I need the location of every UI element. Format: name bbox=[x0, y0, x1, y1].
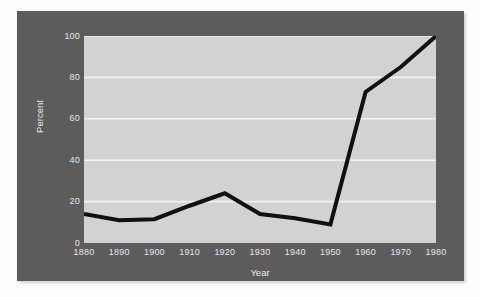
y-tick-label: 40 bbox=[38, 156, 80, 165]
x-tick-label: 1960 bbox=[346, 247, 386, 257]
x-tick-label: 1910 bbox=[170, 247, 210, 257]
chart-panel: 020406080100 188018901900191019201930194… bbox=[17, 11, 464, 281]
x-tick-label: 1900 bbox=[134, 247, 174, 257]
x-tick-label: 1880 bbox=[64, 247, 104, 257]
gridlines bbox=[84, 36, 436, 202]
x-tick-label: 1980 bbox=[416, 247, 456, 257]
plot-svg bbox=[84, 36, 436, 243]
data-line bbox=[84, 36, 436, 224]
y-axis-title: Percent bbox=[34, 77, 45, 157]
x-tick-label: 1930 bbox=[240, 247, 280, 257]
x-tick-label: 1940 bbox=[275, 247, 315, 257]
y-tick-label: 100 bbox=[38, 32, 80, 41]
x-tick-label: 1920 bbox=[205, 247, 245, 257]
x-axis-ticks: 1880189019001910192019301940195019601970… bbox=[84, 247, 436, 261]
chart-figure: 020406080100 188018901900191019201930194… bbox=[0, 0, 480, 297]
x-tick-label: 1890 bbox=[99, 247, 139, 257]
x-tick-label: 1970 bbox=[381, 247, 421, 257]
data-series-group bbox=[84, 36, 436, 224]
x-axis-title: Year bbox=[84, 267, 436, 278]
y-tick-label: 20 bbox=[38, 197, 80, 206]
x-tick-label: 1950 bbox=[310, 247, 350, 257]
plot-area bbox=[84, 36, 436, 243]
